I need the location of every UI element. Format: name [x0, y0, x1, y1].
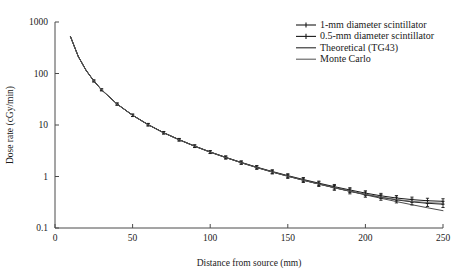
- series-group: [71, 37, 445, 211]
- series-line-2: [71, 37, 443, 204]
- legend-item-4: Monte Carlo: [296, 53, 371, 64]
- legend-label: 0.5-mm diameter scintillator: [320, 30, 435, 41]
- series-1: [71, 37, 445, 205]
- x-tick-label: 200: [358, 233, 373, 243]
- series-4: [71, 37, 443, 203]
- y-tick-label: 1: [43, 172, 48, 182]
- series-2: [71, 37, 445, 208]
- x-tick-label: 50: [128, 233, 138, 243]
- legend-item-1: 1-mm diameter scintillator: [296, 19, 427, 30]
- axes-group: [55, 22, 443, 228]
- x-tick-label: 250: [436, 233, 451, 243]
- legend-group: 1-mm diameter scintillator0.5-mm diamete…: [296, 19, 435, 64]
- y-tick-label: 1000: [29, 17, 48, 27]
- figure-container: 10001001010.1050100150200250 1-mm diamet…: [0, 0, 455, 272]
- series-line-1: [71, 37, 443, 202]
- series-line-4: [71, 37, 443, 203]
- series-3: [71, 37, 443, 211]
- series-line-3: [71, 37, 443, 211]
- y-tick-label: 100: [34, 69, 49, 79]
- y-tick-label: 0.1: [36, 223, 48, 233]
- legend-label: 1-mm diameter scintillator: [320, 19, 427, 30]
- x-axis-title: Distance from source (mm): [197, 258, 302, 269]
- x-tick-label: 150: [281, 233, 296, 243]
- x-tick-label: 0: [53, 233, 58, 243]
- y-axis-title: Dose rate (cGy/min): [5, 86, 16, 164]
- x-tick-label: 100: [203, 233, 218, 243]
- chart-plot: 10001001010.1050100150200250 1-mm diamet…: [0, 0, 455, 272]
- legend-label: Theoretical (TG43): [320, 42, 398, 54]
- legend-item-3: Theoretical (TG43): [296, 42, 398, 54]
- legend-label: Monte Carlo: [320, 53, 371, 64]
- legend-item-2: 0.5-mm diameter scintillator: [296, 30, 435, 41]
- y-tick-label: 10: [39, 120, 49, 130]
